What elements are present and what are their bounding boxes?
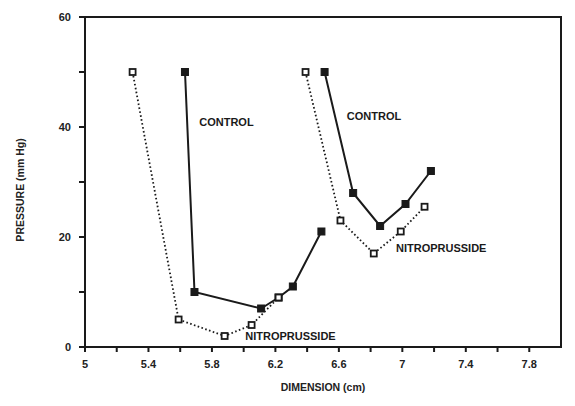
series-line xyxy=(325,72,431,226)
filled-square-marker xyxy=(318,228,325,235)
y-tick-label: 20 xyxy=(59,231,71,243)
series-annotation-control: CONTROL xyxy=(347,110,402,122)
filled-square-marker xyxy=(377,223,384,230)
filled-square-marker xyxy=(350,190,357,197)
y-tick-label: 0 xyxy=(65,341,71,353)
filled-square-marker xyxy=(191,289,198,296)
series-annotation-nitroprusside: NITROPRUSSIDE xyxy=(245,330,335,342)
x-tick-label: 7.8 xyxy=(522,358,537,370)
series-line xyxy=(185,72,321,309)
x-tick-label: 6.6 xyxy=(331,358,346,370)
series-annotation-control: CONTROL xyxy=(199,116,254,128)
open-square-marker xyxy=(249,322,255,328)
x-tick-label: 6.2 xyxy=(268,358,283,370)
open-square-marker xyxy=(176,317,182,323)
filled-square-marker xyxy=(289,283,296,290)
x-tick-label: 7.4 xyxy=(458,358,474,370)
annotations: CONTROLNITROPRUSSIDECONTROLNITROPRUSSIDE xyxy=(199,110,486,342)
x-tick-label: 5 xyxy=(82,358,88,370)
filled-square-marker xyxy=(427,168,434,175)
plot-border xyxy=(85,17,561,347)
y-tick-label: 60 xyxy=(59,11,71,23)
x-tick-label: 5.4 xyxy=(141,358,157,370)
open-square-marker xyxy=(337,218,343,224)
pressure-dimension-chart: 55.45.86.26.677.47.8 0204060 CONTROLNITR… xyxy=(0,0,575,406)
series-line xyxy=(133,72,279,336)
open-square-marker xyxy=(222,333,228,339)
series-control-right-loop xyxy=(321,69,434,230)
y-tick-label: 40 xyxy=(59,121,71,133)
open-square-marker xyxy=(398,229,404,235)
y-axis-title: PRESSURE (mm Hg) xyxy=(14,138,26,241)
filled-square-marker xyxy=(181,69,188,76)
open-square-marker xyxy=(371,251,377,257)
open-square-marker xyxy=(422,204,428,210)
series-control-left-loop xyxy=(181,69,324,313)
x-axis-ticks: 55.45.86.26.677.47.8 xyxy=(82,347,537,370)
open-square-marker xyxy=(276,295,282,301)
series-annotation-nitroprusside: NITROPRUSSIDE xyxy=(396,242,486,254)
open-square-marker xyxy=(303,69,309,75)
x-axis-title: DIMENSION (cm) xyxy=(281,381,366,393)
series-nitroprusside-left-loop xyxy=(130,69,282,339)
y-axis-ticks: 0204060 xyxy=(59,11,85,353)
series-line xyxy=(306,72,425,254)
filled-square-marker xyxy=(402,201,409,208)
filled-square-marker xyxy=(321,69,328,76)
x-tick-label: 7 xyxy=(399,358,405,370)
plot-frame xyxy=(85,17,561,347)
x-tick-label: 5.8 xyxy=(204,358,219,370)
open-square-marker xyxy=(130,69,136,75)
filled-square-marker xyxy=(258,305,265,312)
